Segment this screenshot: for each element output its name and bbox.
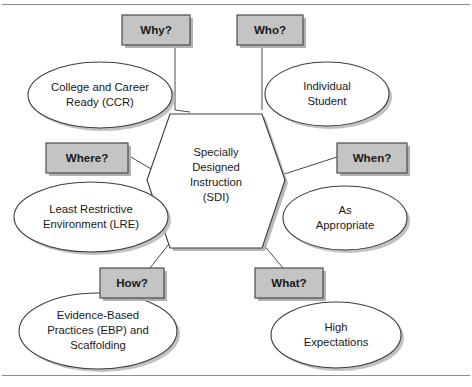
answer-how-line-1: Evidence-Based — [57, 309, 139, 321]
answer-where-line-2: Environment (LRE) — [43, 218, 139, 230]
answer-when-line-2: Appropriate — [316, 219, 374, 231]
label-why-text: Why? — [140, 23, 172, 36]
answer-who-line-2: Student — [308, 95, 348, 107]
center-node-line-2: Designed — [192, 161, 240, 173]
answer-who-line-1: Individual — [303, 80, 351, 92]
center-node-line-3: Instruction — [190, 176, 242, 188]
answer-where-line-1: Least Restrictive — [49, 203, 133, 215]
center-node-line-1: Specially — [193, 146, 239, 158]
label-where-text: Where? — [66, 151, 109, 164]
label-when-text: When? — [353, 151, 392, 164]
branch-where: Least Restrictive Environment (LRE) Wher… — [14, 143, 171, 255]
label-who-text: Who? — [254, 23, 286, 36]
center-node-sdi: Specially Designed Instruction (SDI) — [147, 114, 288, 251]
sdi-diagram-figure: Specially Designed Instruction (SDI) Col… — [0, 0, 472, 387]
answer-what-line-1: High — [324, 321, 347, 333]
answer-why-line-1: College and Career — [51, 81, 149, 93]
center-node-line-4: (SDI) — [203, 191, 230, 203]
answer-how-line-3: Scaffolding — [70, 339, 126, 351]
answer-why-line-2: Ready (CCR) — [66, 96, 134, 108]
answer-when-line-1: As — [338, 204, 352, 216]
label-how-text: How? — [116, 276, 148, 289]
branch-what: High Expectations What? — [255, 268, 404, 371]
connector-why — [175, 47, 190, 112]
answer-what-line-2: Expectations — [304, 336, 369, 348]
branch-why: College and Career Ready (CCR) Why? — [28, 15, 193, 131]
branch-who: Individual Student Who? — [237, 15, 392, 129]
branch-when: As Appropriate When? — [283, 143, 410, 253]
diagram-canvas: Specially Designed Instruction (SDI) Col… — [0, 0, 472, 387]
branch-how: Evidence-Based Practices (EBP) and Scaff… — [19, 268, 180, 372]
answer-how-line-2: Practices (EBP) and — [47, 324, 149, 336]
label-what-text: What? — [271, 276, 306, 289]
